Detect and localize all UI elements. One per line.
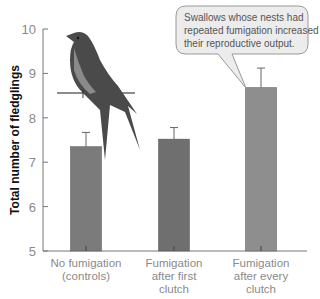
category-label: Fumigationafter everyclutch [233,257,290,295]
y-tick-label: 10 [22,22,36,37]
category-label: No fumigation(controls) [51,257,122,282]
y-tick-label: 6 [29,200,36,215]
y-axis-label: Total number of fledglings [8,65,22,215]
swallow-illustration [57,32,140,160]
bar-chart: 5678910 Total number of fledglings No fu… [0,0,320,299]
bar [246,88,277,251]
y-ticks: 5678910 [22,22,48,259]
y-tick-label: 7 [29,155,36,170]
annotation-callout: Swallows whose nests hadrepeated fumigat… [176,6,319,88]
y-tick-label: 9 [29,66,36,81]
bar [159,139,190,251]
category-labels: No fumigation(controls)Fumigationafter f… [51,257,290,295]
bar [71,147,102,251]
category-label: Fumigationafter firstclutch [146,257,203,295]
y-tick-label: 8 [29,111,36,126]
y-tick-label: 5 [29,244,36,259]
